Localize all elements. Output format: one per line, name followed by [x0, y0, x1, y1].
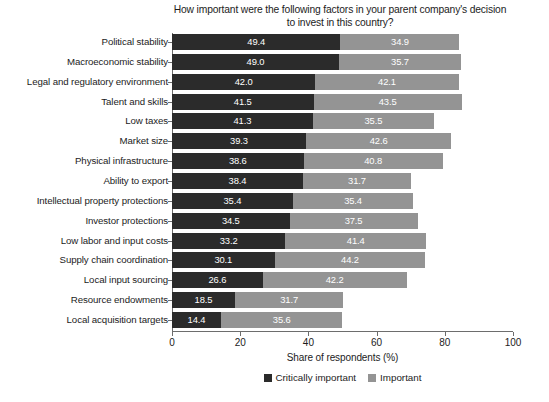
category-label: Intellectual property protections [37, 194, 172, 208]
bar-value-important: 37.5 [290, 213, 418, 229]
bar-row: Low labor and input costs33.241.4 [0, 233, 549, 249]
chart-legend: Critically importantImportant [172, 372, 513, 383]
y-axis-tick [168, 260, 172, 261]
category-label: Local acquisition targets [67, 313, 172, 327]
bar-value-important: 41.4 [285, 233, 426, 249]
legend-swatch-icon [368, 374, 376, 382]
x-axis-title: Share of respondents (%) [172, 352, 513, 363]
x-axis-tick-label: 100 [493, 337, 533, 348]
x-axis-tick-label: 40 [288, 337, 328, 348]
legend-item[interactable]: Important [368, 372, 421, 383]
bar-row: Legal and regulatory environment42.042.1 [0, 74, 549, 90]
bar-value-critically-important: 33.2 [172, 233, 285, 249]
plot-area: Political stability49.434.9Macroeconomic… [0, 0, 549, 402]
bar-value-critically-important: 26.6 [172, 272, 263, 288]
bar-value-important: 35.6 [221, 312, 342, 328]
y-axis-tick [168, 221, 172, 222]
bar-value-critically-important: 42.0 [172, 74, 315, 90]
x-axis-tick [513, 332, 514, 336]
x-axis-tick [240, 332, 241, 336]
category-label: Macroeconomic stability [67, 55, 172, 69]
bar-value-critically-important: 41.3 [172, 113, 313, 129]
y-axis-tick [168, 102, 172, 103]
bar-value-important: 31.7 [303, 173, 411, 189]
y-axis-tick [168, 241, 172, 242]
bar-row: Local acquisition targets14.435.6 [0, 312, 549, 328]
bar-row: Supply chain coordination30.144.2 [0, 252, 549, 268]
y-axis-tick [168, 300, 172, 301]
legend-label: Critically important [276, 372, 357, 383]
y-axis-tick [168, 62, 172, 63]
bar-value-critically-important: 41.5 [172, 94, 314, 110]
bar-value-important: 42.6 [306, 133, 451, 149]
bar-row: Investor protections34.537.5 [0, 213, 549, 229]
bar-row: Market size39.342.6 [0, 133, 549, 149]
y-axis-tick [168, 201, 172, 202]
x-axis-tick-label: 60 [357, 337, 397, 348]
bar-row: Ability to export38.431.7 [0, 173, 549, 189]
x-axis-tick [308, 332, 309, 336]
x-axis-tick [172, 332, 173, 336]
x-axis-tick-label: 20 [220, 337, 260, 348]
x-axis-tick-label: 0 [152, 337, 192, 348]
category-label: Ability to export [103, 174, 172, 188]
y-axis-tick [168, 42, 172, 43]
bar-value-critically-important: 39.3 [172, 133, 306, 149]
bar-row: Macroeconomic stability49.035.7 [0, 54, 549, 70]
legend-label: Important [380, 372, 421, 383]
x-axis-tick [445, 332, 446, 336]
legend-swatch-icon [264, 374, 272, 382]
bar-row: Resource endowments18.531.7 [0, 292, 549, 308]
x-axis-line [172, 331, 513, 332]
bar-row: Political stability49.434.9 [0, 34, 549, 50]
y-axis-tick [168, 141, 172, 142]
y-axis-tick [168, 280, 172, 281]
bar-value-important: 42.2 [263, 272, 407, 288]
category-label: Talent and skills [101, 95, 172, 109]
category-label: Low labor and input costs [61, 234, 172, 248]
category-label: Investor protections [85, 214, 172, 228]
bar-row: Intellectual property protections35.435.… [0, 193, 549, 209]
bar-value-critically-important: 38.6 [172, 153, 304, 169]
stacked-bar-chart: How important were the following factors… [0, 0, 549, 402]
category-label: Local input sourcing [84, 273, 172, 287]
category-label: Market size [120, 134, 172, 148]
y-axis-tick [168, 121, 172, 122]
bar-value-critically-important: 49.4 [172, 34, 340, 50]
bar-value-important: 42.1 [315, 74, 459, 90]
y-axis-tick [168, 320, 172, 321]
category-label: Political stability [102, 35, 172, 49]
category-label: Low taxes [125, 114, 172, 128]
y-axis-tick [168, 161, 172, 162]
bar-value-important: 40.8 [304, 153, 443, 169]
bar-value-critically-important: 38.4 [172, 173, 303, 189]
bar-value-critically-important: 49.0 [172, 54, 339, 70]
bar-value-important: 43.5 [314, 94, 462, 110]
category-label: Legal and regulatory environment [27, 75, 172, 89]
category-label: Supply chain coordination [60, 253, 172, 267]
bar-row: Local input sourcing26.642.2 [0, 272, 549, 288]
bar-value-critically-important: 30.1 [172, 252, 275, 268]
y-axis-tick [168, 181, 172, 182]
category-label: Physical infrastructure [75, 154, 172, 168]
bar-value-important: 35.7 [339, 54, 461, 70]
bar-row: Physical infrastructure38.640.8 [0, 153, 549, 169]
x-axis-tick-label: 80 [425, 337, 465, 348]
bar-value-important: 44.2 [275, 252, 426, 268]
legend-item[interactable]: Critically important [264, 372, 357, 383]
bar-value-important: 35.5 [313, 113, 434, 129]
bar-value-important: 34.9 [340, 34, 459, 50]
y-axis-tick [168, 82, 172, 83]
bar-value-important: 31.7 [235, 292, 343, 308]
bar-value-critically-important: 35.4 [172, 193, 293, 209]
bar-value-critically-important: 14.4 [172, 312, 221, 328]
bar-row: Talent and skills41.543.5 [0, 94, 549, 110]
category-label: Resource endowments [71, 293, 172, 307]
bar-value-important: 35.4 [293, 193, 414, 209]
bar-value-critically-important: 34.5 [172, 213, 290, 229]
bar-value-critically-important: 18.5 [172, 292, 235, 308]
x-axis-tick [377, 332, 378, 336]
bar-row: Low taxes41.335.5 [0, 113, 549, 129]
